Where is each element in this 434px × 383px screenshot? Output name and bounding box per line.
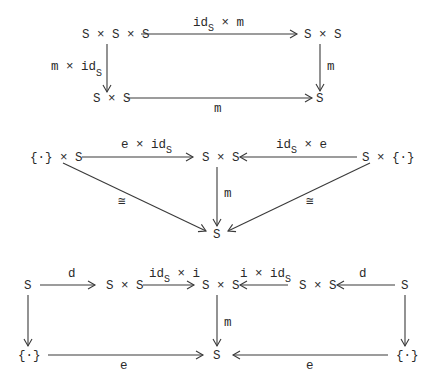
label-id-x-e: idS × e <box>276 138 327 156</box>
label-m-x-id: m × idS <box>51 60 102 79</box>
node-point-right: {·} <box>396 349 419 363</box>
label-m-right: m <box>327 60 335 74</box>
node-s-bottom: S <box>213 349 221 363</box>
arrow-iso-right <box>228 163 370 231</box>
node-sxsxs: S × S × S <box>82 28 150 42</box>
node-sxs-center: S × S <box>202 279 240 293</box>
label-m-center: m <box>224 316 232 330</box>
node-sxs-center: S × S <box>202 151 240 165</box>
node-s-right: S <box>401 279 409 293</box>
label-m-center: m <box>224 187 232 201</box>
inverse-diagram: S S × S S × S S × S S {·} S {·} d idS × … <box>18 267 419 373</box>
label-e-left: e <box>120 359 128 373</box>
node-sxs-top-right: S × S <box>304 28 342 42</box>
node-sxs-right: S × S <box>299 279 337 293</box>
label-d-right: d <box>359 267 367 281</box>
label-m-bottom: m <box>214 102 222 116</box>
label-e-x-id: e × idS <box>121 138 172 156</box>
label-id-x-m: idS × m <box>193 16 244 34</box>
label-i-x-id: i × idS <box>240 267 291 285</box>
label-iso-left: ≅ <box>118 195 126 209</box>
node-sxs-bottom-left: S × S <box>93 92 131 106</box>
label-iso-right: ≅ <box>306 195 314 209</box>
label-d-left: d <box>68 267 76 281</box>
node-s-left: S <box>24 279 32 293</box>
node-point-left: {·} <box>18 349 41 363</box>
node-s-bottom-right: S <box>316 92 324 106</box>
identity-diagram: {·} × S S × S S × {·} S e × idS idS × e … <box>30 138 415 242</box>
label-e-right: e <box>306 359 314 373</box>
arrow-iso-left <box>63 163 206 231</box>
label-id-x-i: idS × i <box>149 267 200 285</box>
commutative-diagrams: S × S × S S × S S × S S idS × m m × idS … <box>0 0 434 383</box>
node-s-bottom: S <box>213 228 221 242</box>
node-point-x-s: {·} × S <box>30 151 83 165</box>
associativity-diagram: S × S × S S × S S × S S idS × m m × idS … <box>51 16 342 116</box>
node-sxs-left: S × S <box>106 279 144 293</box>
